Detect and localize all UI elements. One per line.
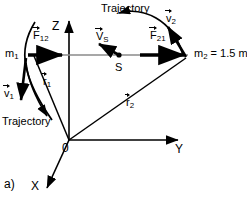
vector-symbol-r2: r: [126, 96, 130, 108]
mass-2-relation: = 1.5 m: [211, 47, 247, 59]
physics-vector-diagram: Z Y X 0 m1 m2= 1.5 m1 S F12 F21 VS v2 v1…: [0, 0, 247, 210]
vector-subscript-r1: 1: [47, 80, 51, 89]
vector-label-v1: v1: [4, 88, 14, 101]
panel-label: a): [4, 178, 15, 190]
trajectory-label-top: Trajectory: [101, 3, 150, 14]
vector-symbol-v1: v: [4, 87, 10, 99]
vector-label-Vs: VS: [96, 31, 109, 44]
vector-Vs-arrow: [99, 44, 119, 55]
vector-symbol-F21: F: [150, 29, 157, 41]
mass-2-subscript: 2: [203, 52, 207, 61]
mass-2-symbol: m: [194, 47, 203, 59]
vector-symbol-F12: F: [33, 29, 40, 41]
vector-arrow-bar-Vs: [95, 28, 102, 29]
vector-subscript-r2: 2: [130, 101, 134, 110]
mass-1-symbol: m: [5, 47, 14, 59]
center-of-mass-label: S: [115, 62, 122, 73]
axis-label-y: Y: [175, 143, 183, 155]
mass-1-label: m1: [5, 48, 19, 61]
vector-label-F21: F21: [150, 30, 166, 43]
vector-arrow-bar-r2: [125, 94, 129, 95]
axis-label-x: X: [31, 180, 39, 192]
vector-subscript-v1: 1: [10, 92, 14, 101]
vector-arrow-bar-F21: [149, 27, 156, 28]
vector-arrow-bar-F12: [32, 27, 39, 28]
trajectory-label-left: Trajectory: [2, 116, 51, 127]
vector-arrow-bar-v2: [165, 10, 171, 11]
vector-subscript-F12: 12: [40, 34, 49, 43]
vector-symbol-Vs: V: [96, 30, 103, 42]
vector-label-r2: r2: [126, 97, 134, 110]
mass-1-subscript: 1: [14, 52, 18, 61]
vector-subscript-Vs: S: [103, 35, 108, 44]
vector-symbol-v2: v: [166, 12, 172, 24]
origin-label: 0: [62, 142, 69, 154]
vector-label-r1: r1: [43, 76, 51, 89]
vector-subscript-v2: 2: [172, 17, 176, 26]
mass-2-label: m2= 1.5 m1: [194, 48, 247, 61]
vector-label-v2: v2: [166, 13, 176, 26]
vector-symbol-r1: r: [43, 75, 47, 87]
vector-r1-line: [34, 56, 69, 140]
vector-label-F12: F12: [33, 30, 49, 43]
vector-arrow-bar-v1: [3, 85, 9, 86]
vector-arrow-bar-r1: [42, 73, 46, 74]
vector-subscript-F21: 21: [157, 34, 166, 43]
axis-label-z: Z: [52, 20, 59, 32]
